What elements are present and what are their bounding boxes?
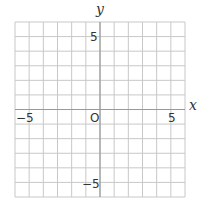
y-axis-label: y bbox=[96, 3, 104, 15]
y-tick-label-5: 5 bbox=[90, 31, 98, 43]
x-tick-label-5: 5 bbox=[168, 112, 176, 124]
x-tick-label-neg5: −5 bbox=[16, 112, 34, 124]
x-axis-label: x bbox=[189, 99, 197, 111]
y-tick-label-neg5: −5 bbox=[82, 178, 100, 190]
coordinate-plane bbox=[0, 0, 206, 211]
origin-label: O bbox=[90, 112, 99, 124]
